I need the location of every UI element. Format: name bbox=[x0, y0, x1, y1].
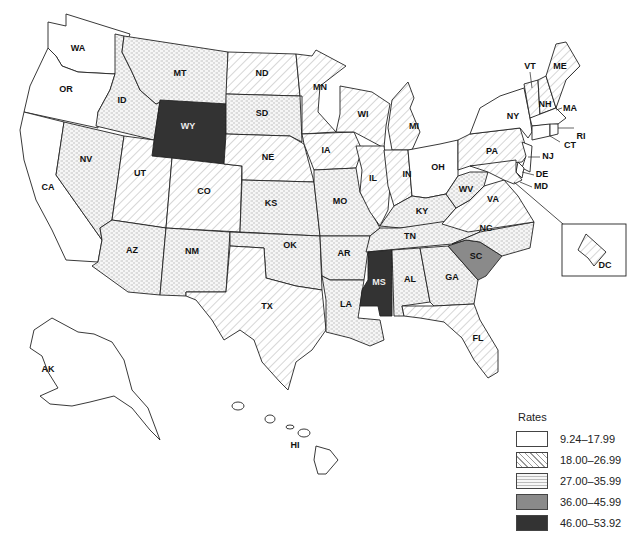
legend-item: 9.24–17.99 bbox=[516, 429, 621, 449]
svg-text:TX: TX bbox=[261, 301, 273, 311]
legend-swatch bbox=[516, 515, 548, 531]
svg-text:VA: VA bbox=[487, 194, 499, 204]
svg-text:ND: ND bbox=[256, 68, 269, 78]
svg-text:MO: MO bbox=[333, 196, 348, 206]
svg-text:FL: FL bbox=[473, 333, 484, 343]
svg-text:OK: OK bbox=[283, 240, 297, 250]
state-AZ bbox=[92, 220, 166, 295]
svg-text:PA: PA bbox=[486, 146, 498, 156]
svg-text:WV: WV bbox=[459, 184, 474, 194]
svg-text:AL: AL bbox=[404, 274, 416, 284]
svg-text:KS: KS bbox=[265, 198, 278, 208]
svg-text:NE: NE bbox=[262, 152, 275, 162]
svg-text:GA: GA bbox=[445, 272, 459, 282]
legend: Rates 9.24–17.99 18.00–26.99 27.00–35.99… bbox=[516, 411, 621, 534]
svg-text:WA: WA bbox=[71, 43, 86, 53]
legend-item: 27.00–35.99 bbox=[516, 471, 621, 491]
legend-item: 18.00–26.99 bbox=[516, 450, 621, 470]
legend-swatch bbox=[516, 494, 548, 510]
svg-text:AK: AK bbox=[42, 364, 55, 374]
state-RI bbox=[550, 124, 558, 136]
svg-text:AR: AR bbox=[338, 248, 351, 258]
svg-text:NJ: NJ bbox=[542, 151, 554, 161]
state-HI bbox=[232, 402, 338, 474]
svg-text:MN: MN bbox=[313, 82, 327, 92]
svg-text:DC: DC bbox=[599, 260, 612, 270]
legend-label: 46.00–53.92 bbox=[560, 517, 621, 529]
svg-text:DE: DE bbox=[536, 169, 549, 179]
svg-text:MI: MI bbox=[409, 121, 419, 131]
legend-label: 9.24–17.99 bbox=[560, 433, 615, 445]
svg-text:HI: HI bbox=[291, 440, 300, 450]
svg-text:NM: NM bbox=[185, 246, 199, 256]
legend-item: 36.00–45.99 bbox=[516, 492, 621, 512]
state-CT bbox=[532, 124, 550, 140]
legend-item: 46.00–53.92 bbox=[516, 513, 621, 533]
svg-text:LA: LA bbox=[340, 299, 352, 309]
state-IA bbox=[302, 132, 362, 170]
state-FL bbox=[402, 304, 498, 378]
legend-label: 36.00–45.99 bbox=[560, 496, 621, 508]
svg-text:WI: WI bbox=[358, 109, 369, 119]
svg-text:UT: UT bbox=[134, 168, 146, 178]
svg-text:RI: RI bbox=[577, 131, 586, 141]
state-AK bbox=[30, 318, 160, 440]
svg-text:IL: IL bbox=[369, 173, 378, 183]
svg-text:IN: IN bbox=[403, 169, 412, 179]
svg-text:MA: MA bbox=[563, 103, 577, 113]
svg-text:WY: WY bbox=[181, 121, 196, 131]
state-MI bbox=[388, 82, 420, 150]
svg-text:CO: CO bbox=[197, 186, 211, 196]
svg-text:SC: SC bbox=[470, 251, 483, 261]
svg-text:CA: CA bbox=[42, 182, 55, 192]
svg-text:KY: KY bbox=[416, 206, 429, 216]
legend-label: 18.00–26.99 bbox=[560, 454, 621, 466]
svg-text:TN: TN bbox=[404, 231, 416, 241]
svg-text:OH: OH bbox=[431, 162, 445, 172]
legend-swatch bbox=[516, 452, 548, 468]
legend-title: Rates bbox=[518, 411, 621, 423]
state-NY bbox=[470, 88, 532, 138]
svg-text:AZ: AZ bbox=[126, 245, 138, 255]
state-WY bbox=[152, 100, 228, 164]
svg-text:NY: NY bbox=[507, 111, 520, 121]
svg-text:VT: VT bbox=[524, 61, 536, 71]
svg-text:NC: NC bbox=[480, 223, 493, 233]
svg-text:MS: MS bbox=[372, 277, 386, 287]
svg-text:MT: MT bbox=[174, 68, 187, 78]
svg-text:SD: SD bbox=[256, 108, 269, 118]
svg-text:MD: MD bbox=[534, 181, 548, 191]
svg-text:ME: ME bbox=[553, 61, 567, 71]
svg-text:ID: ID bbox=[118, 95, 128, 105]
svg-text:IA: IA bbox=[322, 145, 332, 155]
svg-text:OR: OR bbox=[59, 84, 73, 94]
legend-swatch bbox=[516, 431, 548, 447]
state-KS bbox=[240, 180, 320, 236]
legend-label: 27.00–35.99 bbox=[560, 475, 621, 487]
svg-text:CT: CT bbox=[564, 140, 576, 150]
svg-text:NV: NV bbox=[80, 154, 93, 164]
svg-text:NH: NH bbox=[539, 99, 552, 109]
legend-swatch bbox=[516, 473, 548, 489]
state-NM bbox=[160, 228, 230, 296]
